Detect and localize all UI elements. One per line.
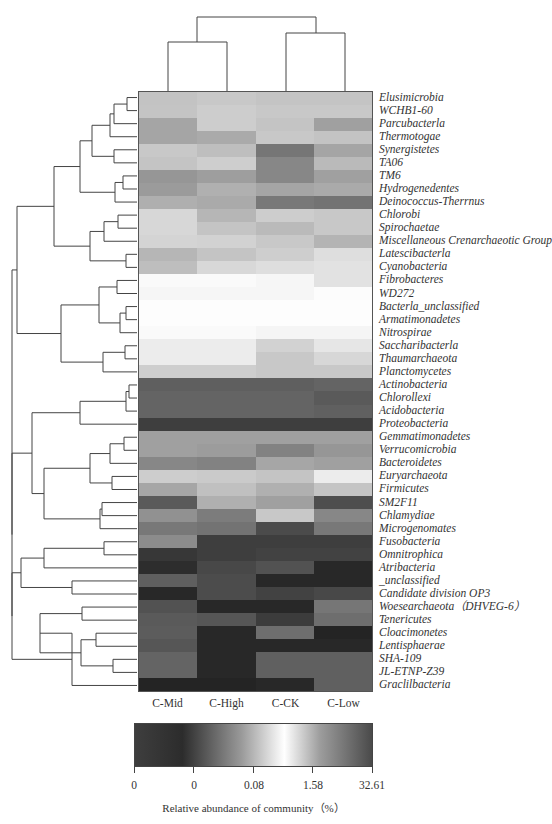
heatmap-cell: [314, 339, 372, 352]
column-label-c-low: C-Low: [314, 697, 373, 709]
heatmap-cell: [197, 613, 255, 626]
heatmap-cell: [139, 92, 197, 105]
heatmap-cell: [314, 587, 372, 600]
row-label: Bacterla_unclassified: [379, 300, 479, 313]
heatmap-cell: [256, 157, 314, 170]
row-dendrogram: [0, 0, 140, 700]
heatmap-cell: [197, 118, 255, 131]
heatmap-cell: [197, 535, 255, 548]
heatmap-cell: [197, 405, 255, 418]
heatmap-cell: [314, 678, 372, 691]
row-label: Euryarchaeota: [379, 469, 448, 482]
row-label: Bacteroidetes: [379, 456, 442, 469]
heatmap-cell: [256, 300, 314, 313]
heatmap-cell: [139, 105, 197, 118]
row-label: Spirochaetae: [379, 221, 439, 234]
heatmap-cell: [256, 574, 314, 587]
heatmap-cell: [139, 274, 197, 287]
row-label: _unclassified: [379, 574, 440, 587]
heatmap-cell: [139, 391, 197, 404]
heatmap-cell: [139, 444, 197, 457]
row-label: Tenericutes: [379, 613, 432, 626]
heatmap-cell: [314, 313, 372, 326]
row-label: Proteobacteria: [379, 417, 448, 430]
heatmap-cell: [197, 496, 255, 509]
heatmap-cell: [256, 652, 314, 665]
row-label: Thaumarchaeota: [379, 352, 457, 365]
heatmap-cell: [139, 326, 197, 339]
heatmap-cell: [314, 196, 372, 209]
row-label: Graclilbacteria: [379, 678, 451, 691]
heatmap-cell: [314, 300, 372, 313]
heatmap-cell: [197, 352, 255, 365]
heatmap-cell: [314, 326, 372, 339]
heatmap-cell: [314, 613, 372, 626]
heatmap-cell: [139, 418, 197, 431]
heatmap-cell: [139, 587, 197, 600]
heatmap-cell: [139, 626, 197, 639]
heatmap-cell: [197, 339, 255, 352]
heatmap-cell: [256, 522, 314, 535]
column-label-c-high: C-High: [197, 697, 256, 709]
heatmap-cell: [256, 626, 314, 639]
heatmap-cell: [139, 470, 197, 483]
heatmap-cell: [256, 183, 314, 196]
heatmap-cell: [314, 222, 372, 235]
row-label: Synergistetes: [379, 143, 439, 156]
heatmap-cell: [139, 639, 197, 652]
row-label: Parcubacterla: [379, 117, 445, 130]
heatmap-cell: [314, 92, 372, 105]
heatmap-cell: [139, 287, 197, 300]
heatmap-cell: [197, 144, 255, 157]
heatmap-cell: [139, 496, 197, 509]
row-label: SM2F11: [379, 496, 418, 509]
heatmap-cell: [256, 118, 314, 131]
heatmap-cell: [197, 170, 255, 183]
heatmap-cell: [256, 457, 314, 470]
row-label: Miscellaneous Crenarchaeotic Group: [379, 234, 552, 247]
heatmap-cell: [197, 483, 255, 496]
heatmap-cell: [197, 196, 255, 209]
heatmap-cell: [314, 157, 372, 170]
heatmap-cell: [314, 391, 372, 404]
heatmap-cell: [314, 600, 372, 613]
row-label: Chlorobi: [379, 208, 420, 221]
heatmap-cell: [314, 431, 372, 444]
heatmap-cell: [197, 548, 255, 561]
heatmap-cell: [139, 170, 197, 183]
heatmap-cell: [256, 431, 314, 444]
heatmap-cell: [256, 639, 314, 652]
colorbar-tick: [372, 767, 373, 773]
colorbar-tick-label: 0: [191, 779, 197, 791]
heatmap-cell: [256, 613, 314, 626]
column-label-c-mid: C-Mid: [138, 697, 197, 709]
row-label: Nitrospirae: [379, 326, 432, 339]
heatmap-cell: [314, 522, 372, 535]
heatmap-cell: [314, 118, 372, 131]
heatmap-cell: [256, 209, 314, 222]
heatmap-cell: [139, 574, 197, 587]
colorbar-tick-label: 0: [131, 779, 137, 791]
row-label: Microgenomates: [379, 522, 456, 535]
row-label: Planctomycetes: [379, 365, 451, 378]
row-label: Candidate division OP3: [379, 587, 490, 600]
heatmap-cell: [256, 326, 314, 339]
heatmap-cell: [197, 209, 255, 222]
heatmap-cell: [139, 548, 197, 561]
heatmap-cell: [197, 287, 255, 300]
colorbar: [134, 723, 373, 767]
heatmap-cell: [139, 365, 197, 378]
row-label: Saccharibacterla: [379, 339, 458, 352]
heatmap-cell: [197, 261, 255, 274]
heatmap-cell: [139, 483, 197, 496]
row-label: JL-ETNP-Z39: [379, 665, 444, 678]
heatmap-cell: [314, 105, 372, 118]
row-label: Armatimonadetes: [379, 313, 460, 326]
heatmap-cell: [139, 183, 197, 196]
heatmap-cell: [197, 105, 255, 118]
heatmap-cell: [197, 561, 255, 574]
heatmap-cell: [314, 535, 372, 548]
heatmap-cell: [139, 144, 197, 157]
heatmap-cell: [256, 339, 314, 352]
row-label: Woesearchaeota（DHVEG-6）: [379, 600, 525, 613]
